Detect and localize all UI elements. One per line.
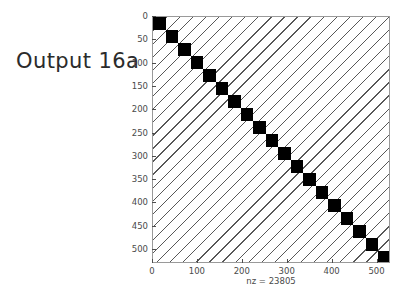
diagonal-block (378, 251, 390, 263)
diagonal-block (228, 95, 241, 108)
y-tick-mark (152, 249, 156, 250)
y-tick-label: 400 (126, 197, 148, 207)
y-tick-mark (152, 133, 156, 134)
y-tick-label: 0 (126, 11, 148, 21)
x-tick-mark (152, 259, 153, 263)
diagonal-block (316, 186, 328, 199)
diagonal-block (341, 212, 354, 225)
diagonal-block (191, 56, 204, 69)
x-tick-label: 200 (234, 266, 250, 276)
x-tick-label: 0 (149, 266, 154, 276)
diagonal-block (216, 82, 228, 95)
diagonal-block (291, 160, 304, 173)
diagonal-block (278, 147, 291, 160)
y-tick-label: 200 (126, 104, 148, 114)
y-tick-label: 50 (126, 34, 148, 44)
y-tick-label: 500 (126, 244, 148, 254)
diagonal-block (303, 173, 316, 186)
x-tick-mark (197, 259, 198, 263)
diagonal-block (266, 134, 279, 147)
y-tick-mark (152, 86, 156, 87)
diagonal-block (328, 199, 341, 212)
x-tick-mark (377, 259, 378, 263)
diagonal-block (253, 121, 266, 134)
x-tick-mark (332, 259, 333, 263)
y-tick-mark (152, 109, 156, 110)
diagonal-block (178, 43, 191, 56)
diagonal-block (166, 30, 179, 43)
y-tick-mark (152, 39, 156, 40)
y-tick-mark (152, 202, 156, 203)
diagonal-block (366, 238, 379, 251)
y-tick-mark (152, 156, 156, 157)
y-tick-mark (152, 16, 156, 17)
y-tick-mark (152, 226, 156, 227)
y-tick-label: 450 (126, 221, 148, 231)
x-tick-mark (287, 259, 288, 263)
x-tick-label: 500 (368, 266, 384, 276)
diagonal-block (153, 17, 166, 30)
diagonal-block (353, 225, 366, 238)
y-tick-mark (152, 179, 156, 180)
x-tick-label: 100 (189, 266, 205, 276)
y-tick-label: 350 (126, 174, 148, 184)
diagonal-block (203, 69, 216, 82)
y-tick-mark (152, 63, 156, 64)
y-tick-label: 250 (126, 128, 148, 138)
x-tick-mark (242, 259, 243, 263)
y-tick-label: 150 (126, 81, 148, 91)
diagonal-block (241, 108, 254, 121)
page-title: Output 16a (16, 49, 139, 73)
y-tick-label: 100 (126, 58, 148, 68)
x-tick-label: 400 (323, 266, 339, 276)
plot-frame (152, 16, 390, 263)
x-axis-label: nz = 23805 (246, 276, 295, 286)
diagonal-blocks (153, 17, 389, 262)
x-tick-label: 300 (279, 266, 295, 276)
sparsity-plot (152, 16, 390, 263)
y-tick-label: 300 (126, 151, 148, 161)
